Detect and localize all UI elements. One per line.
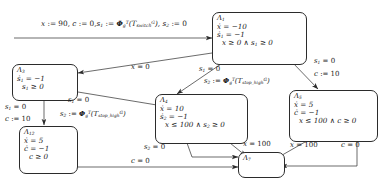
edge-label-L1-L4-guard: s1 = 0 — [199, 65, 220, 73]
state-node-lambda4[interactable]: Λ4 ẋ = 10 ṡ2 = −1 x ≤ 100 ∧ s2 ≥ 0 — [155, 94, 248, 144]
edge-label-L3-L4-guard: s1 = 0 — [68, 96, 89, 104]
edge-label-L1-L3: x = 0 — [131, 63, 150, 71]
state-node-lambda12[interactable]: Λ12 ẋ = 5 ċ = −1 c ≥ 0 — [19, 126, 78, 174]
edge-label-L5-L7-x: x = 100 — [290, 141, 318, 149]
state-invariant-lambda1: x ≥ 0 ∧ s1 ≥ 0 — [217, 39, 302, 47]
state-invariant-lambda12: c ≥ 0 — [24, 153, 73, 161]
edge-label-L3-L4-assign: s2 := ΦgT(Tstop_highG) — [60, 109, 126, 118]
edge-L4-L7-s2 — [187, 143, 238, 157]
edge-label-init: x := 90, c := 0,s1 := ΦgT(TswitchG), s2 … — [41, 19, 187, 28]
state-label-lambda7: Λ7 — [243, 155, 280, 163]
edge-label-L1-L5-guard: s1 = 0 — [314, 57, 335, 65]
edge-label-L3-L12-guard: s1 = 0 — [5, 103, 26, 111]
edge-label-L4-L7-x: x = 100 — [243, 140, 271, 148]
state-invariant-lambda5: x ≤ 100 ∧ c ≥ 0 — [294, 117, 373, 125]
edge-label-L12-L7: c = 0 — [131, 157, 150, 165]
edge-label-L4-L7-s2: s2 = 0 — [144, 143, 165, 151]
edge-label-L1-L5-assign: c := 10 — [314, 70, 340, 78]
state-node-lambda7[interactable]: Λ7 — [238, 152, 285, 178]
state-invariant-lambda3: s1 ≥ 0 — [17, 83, 73, 91]
state-node-lambda5[interactable]: Λ5 ẋ = 5 ċ = −1 x ≤ 100 ∧ c ≥ 0 — [289, 90, 378, 142]
edge-label-L5-L7-c: c = 0 — [341, 141, 360, 149]
state-invariant-lambda4: x ≤ 100 ∧ s2 ≥ 0 — [160, 121, 243, 129]
edge-label-L1-L4-assign: s2 := ΦgT(Tstop_highG) — [204, 76, 270, 85]
hybrid-automaton-diagram: x := 90, c := 0,s1 := ΦgT(TswitchG), s2 … — [0, 0, 383, 191]
edge-label-L3-L12-assign: c := 10 — [5, 115, 31, 123]
state-node-lambda1[interactable]: Λ1 ẋ = −10 ṡ1 = −1 x ≥ 0 ∧ s1 ≥ 0 — [212, 12, 307, 65]
